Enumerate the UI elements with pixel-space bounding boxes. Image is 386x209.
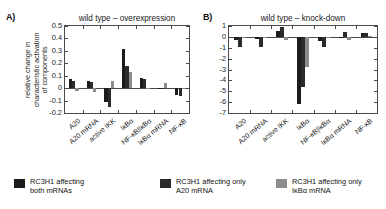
bar [111, 81, 114, 88]
x-axis-category-label: IκBα [295, 117, 311, 132]
y-axis-title-line: relative change in [23, 21, 32, 118]
x-axis-tick [314, 26, 315, 29]
bar [164, 83, 167, 88]
x-axis-tick [314, 110, 315, 113]
y-axis-tick-label: -2 [206, 54, 226, 63]
y-axis-tick-label: -0.1 [42, 96, 62, 105]
x-axis-tick [271, 110, 272, 113]
figure-root: A) wild type – overexpression relative c… [0, 0, 386, 209]
panel-b: B) wild type – knock-down -7-6-5-4-3-2-1… [197, 0, 386, 170]
panel-a-title: wild type – overexpression [64, 14, 190, 23]
legend-label-ikba-mrna: RC3H1 affecting only IκBα mRNA [292, 177, 362, 195]
x-axis-tick [154, 26, 155, 29]
y-axis-tick [65, 26, 68, 27]
y-axis-tick-label: -4 [206, 75, 226, 84]
x-axis-tick [335, 110, 336, 113]
y-axis-tick [186, 88, 189, 89]
x-axis-tick [250, 110, 251, 113]
bar [161, 88, 164, 89]
panel-a-letter: A) [6, 12, 15, 22]
panel-b-title: wild type – knock-down [228, 14, 378, 23]
legend-label-a20-mrna: RC3H1 affecting only A20 mRNA [176, 177, 246, 195]
y-axis-tick [229, 80, 232, 81]
y-axis-tick-label: 0.5 [42, 21, 62, 30]
y-axis-tick-label: 0.3 [42, 46, 62, 55]
legend-item-both-mrnas[interactable]: RC3H1 affecting both mRNAs [14, 177, 84, 195]
legend-swatch-ikba-mrna [276, 179, 287, 188]
y-axis-tick [186, 76, 189, 77]
y-axis-tick-label: 1 [206, 21, 226, 30]
legend-item-ikba-mrna[interactable]: RC3H1 affecting only IκBα mRNA [276, 177, 362, 195]
y-axis-tick [186, 26, 189, 27]
y-axis-tick [374, 37, 377, 38]
x-axis-tick [83, 26, 84, 29]
x-axis-tick [250, 26, 251, 29]
y-axis-tick-label: 0.1 [42, 71, 62, 80]
y-axis-tick [65, 88, 68, 89]
x-axis-tick [356, 26, 357, 29]
bar [182, 88, 185, 89]
x-axis-tick [136, 110, 137, 113]
bar [284, 37, 288, 40]
y-axis-tick [229, 59, 232, 60]
bar [93, 88, 96, 92]
bar [326, 37, 330, 38]
x-axis-tick [100, 26, 101, 29]
y-axis-tick [374, 48, 377, 49]
x-axis-tick [292, 26, 293, 29]
bar [339, 37, 343, 38]
y-axis-tick [65, 63, 68, 64]
y-axis-tick [65, 101, 68, 102]
y-axis-tick-label: 0.2 [42, 58, 62, 67]
x-axis-tick [171, 110, 172, 113]
bar [179, 88, 182, 95]
bar [368, 36, 372, 37]
y-axis-tick-label: 0 [42, 83, 62, 92]
y-axis-tick [229, 37, 232, 38]
y-axis-tick [229, 48, 232, 49]
x-axis-category-label: NF-κB [168, 117, 189, 136]
y-axis-tick-label: -1 [206, 43, 226, 52]
bar [322, 37, 326, 47]
zero-baseline [65, 88, 189, 89]
y-axis-tick [374, 91, 377, 92]
panel-b-plot-area [228, 25, 378, 114]
x-axis-tick [271, 26, 272, 29]
y-axis-tick [374, 80, 377, 81]
y-axis-tick-label: -0.2 [42, 108, 62, 117]
y-axis-tick [65, 38, 68, 39]
legend-item-a20-mrna[interactable]: RC3H1 affecting only A20 mRNA [160, 177, 246, 195]
x-axis-tick [356, 110, 357, 113]
bar [238, 37, 242, 47]
x-axis-tick [171, 26, 172, 29]
legend-swatch-a20-mrna [160, 179, 171, 188]
bar [146, 88, 149, 89]
x-axis-tick [100, 110, 101, 113]
y-axis-tick [186, 63, 189, 64]
x-axis-category-label: A20 [233, 117, 248, 131]
y-axis-tick-label: 0 [206, 32, 226, 41]
x-axis-tick [83, 110, 84, 113]
bar [129, 72, 132, 88]
y-axis-tick [186, 51, 189, 52]
bar [280, 27, 284, 37]
panel-a: A) wild type – overexpression relative c… [0, 0, 197, 170]
y-axis-tick [374, 70, 377, 71]
y-axis-tick-label: -3 [206, 65, 226, 74]
legend-swatch-both-mrnas [14, 179, 25, 188]
x-axis-category-label: NF-κB [354, 117, 375, 136]
y-axis-tick [65, 76, 68, 77]
bar [108, 88, 111, 107]
y-axis-tick [229, 102, 232, 103]
y-axis-tick [186, 101, 189, 102]
y-axis-tick [374, 26, 377, 27]
y-axis-tick [229, 70, 232, 71]
y-axis-tick [229, 91, 232, 92]
y-axis-tick [229, 26, 232, 27]
y-axis-tick [186, 38, 189, 39]
bar [259, 37, 263, 47]
bar [72, 81, 75, 88]
y-axis-tick [374, 102, 377, 103]
y-axis-tick [65, 51, 68, 52]
x-axis-tick [154, 110, 155, 113]
